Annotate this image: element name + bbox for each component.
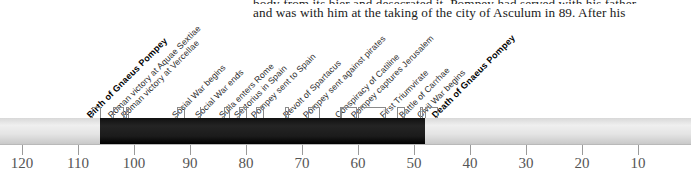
body-text-block: body from its bier and desecrated it. Po… [253,0,691,21]
lifespan-span [100,118,425,144]
event-leader-line [422,107,423,118]
axis-tick-label: 100 [123,155,146,172]
event-leader-line [113,107,114,118]
axis-tick [414,145,415,155]
event-leader-line [128,107,129,118]
event-leader-line [200,107,201,118]
event-leader-elbow [256,107,263,108]
event-leader-elbow [425,107,437,108]
event-leader-line [288,107,289,118]
event-leader-line [229,107,230,118]
axis-tick-label: 60 [351,155,366,172]
axis-tick [470,145,471,155]
event-leader-line [92,107,93,118]
event-leader-elbow [113,107,123,108]
axis-tick [526,145,527,155]
event-leader-elbow [239,107,246,108]
event-leader-line [100,107,101,118]
axis-tick [358,145,359,155]
event-leader-line [356,107,357,118]
event-leader-line [397,107,398,118]
event-leader-line [177,107,178,118]
body-text-line-2: and was with him at the taking of the ci… [253,4,691,21]
event-leader-line [123,107,124,118]
axis-tick [246,145,247,155]
axis-tick-label: 30 [519,155,534,172]
event-leader-line [256,107,257,118]
axis-tick-label: 50 [407,155,422,172]
event-leader-elbow [308,107,319,108]
event-leader-elbow [177,107,184,108]
event-leader-line [425,107,426,118]
timeline-bar [0,118,691,144]
axis-tick [22,145,23,155]
axis-tick [78,145,79,155]
event-leader-line [126,107,127,118]
axis-tick-label: 110 [67,155,89,172]
event-leader-elbow [341,107,356,108]
event-leader-elbow [397,107,404,108]
axis-tick-label: 120 [11,155,34,172]
axis-tick-label: 10 [631,155,646,172]
event-leader-line [285,107,286,118]
axis-tick-label: 70 [295,155,310,172]
event-leader-line [239,107,240,118]
timeline-figure: body from its bier and desecrated it. Po… [0,0,691,190]
event-leader-line [437,107,438,118]
event-leader-elbow [358,107,385,108]
axis-tick-label: 80 [239,155,254,172]
event-leader-line [224,107,225,118]
event-leader-line [404,107,405,118]
axis-tick [134,145,135,155]
event-leader-line [358,107,359,118]
axis-tick-label: 20 [575,155,590,172]
axis-line [0,144,691,145]
event-leader-line [341,107,342,118]
event-leader-line [420,107,421,118]
axis-tick-label: 40 [463,155,478,172]
event-leader-line [263,107,264,118]
event-leader-line [319,107,320,118]
event-leader-line [246,107,247,118]
event-leader-line [308,107,309,118]
event-leader-line [385,107,386,118]
event-leader-line [184,107,185,118]
axis-tick [638,145,639,155]
axis-tick [302,145,303,155]
event-leader-elbow [92,107,100,108]
axis-tick [582,145,583,155]
axis-tick-label: 90 [183,155,198,172]
axis-tick [190,145,191,155]
